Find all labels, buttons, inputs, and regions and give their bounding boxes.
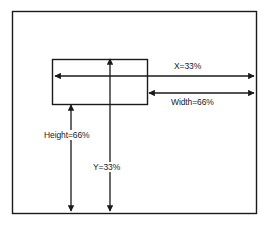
outer-container-rectangle xyxy=(13,12,257,214)
measure-label-height: Height=66% xyxy=(43,130,91,140)
measure-label-x: X=33% xyxy=(174,61,201,71)
inner-element-rectangle xyxy=(53,60,148,105)
diagram-vector-layer xyxy=(0,0,269,225)
measure-label-width: Width=66% xyxy=(171,97,214,107)
diagram-canvas: X=33% Width=66% Height=66% Y=33% xyxy=(0,0,269,225)
measure-label-y: Y=33% xyxy=(92,162,121,172)
